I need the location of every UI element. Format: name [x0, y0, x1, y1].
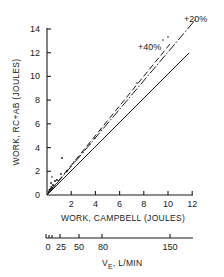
- y-axis: [47, 28, 51, 195]
- ve-tick-label: 80: [98, 242, 108, 252]
- chart-canvas: 0 2 4 6 8 10 12 14 2 4 6 8 10 12 WORK, C…: [0, 0, 224, 277]
- ve-tick-label: 50: [74, 242, 84, 252]
- data-points: [47, 36, 168, 193]
- x-tick-label: 6: [117, 199, 122, 209]
- y-axis-title: WORK, RC+AB (JOULES): [11, 59, 21, 166]
- x-axis: [47, 191, 193, 195]
- x-tick-label: 12: [187, 199, 197, 209]
- y-tick-label: 12: [30, 48, 40, 58]
- y-tick-label: 14: [30, 24, 40, 34]
- ve-axis-title-rest: , L/MIN: [113, 258, 143, 268]
- y-tick-label: 2: [35, 166, 40, 176]
- plus-20-line: [47, 19, 196, 195]
- annotation-plus-20: +20%: [184, 14, 207, 24]
- y-tick-label: 0: [35, 190, 40, 200]
- plus-40-line: [47, 44, 170, 195]
- ve-tick-label: 0: [45, 242, 50, 252]
- y-tick-label: 8: [35, 95, 40, 105]
- annotation-plus-40: +40%: [138, 42, 161, 52]
- ve-axis: [46, 234, 193, 238]
- ve-tick-labels: 0 25 50 80 150: [45, 242, 177, 252]
- y-tick-label: 6: [35, 119, 40, 129]
- y-tick-labels: 0 2 4 6 8 10 12 14: [30, 24, 40, 200]
- ve-tick-label: 150: [162, 242, 177, 252]
- y-tick-label: 4: [35, 143, 40, 153]
- y-tick-label: 10: [30, 71, 40, 81]
- x-tick-label: 10: [163, 199, 173, 209]
- x-tick-label: 4: [93, 199, 98, 209]
- x-tick-label: 2: [69, 199, 74, 209]
- x-axis-title: WORK, CAMPBELL (JOULES): [61, 213, 185, 223]
- identity-line: [47, 53, 189, 195]
- ve-axis-title: VE, L/MIN: [102, 258, 142, 270]
- x-tick-label: 8: [141, 199, 146, 209]
- x-tick-labels: 2 4 6 8 10 12: [69, 199, 198, 209]
- ve-tick-label: 25: [56, 242, 66, 252]
